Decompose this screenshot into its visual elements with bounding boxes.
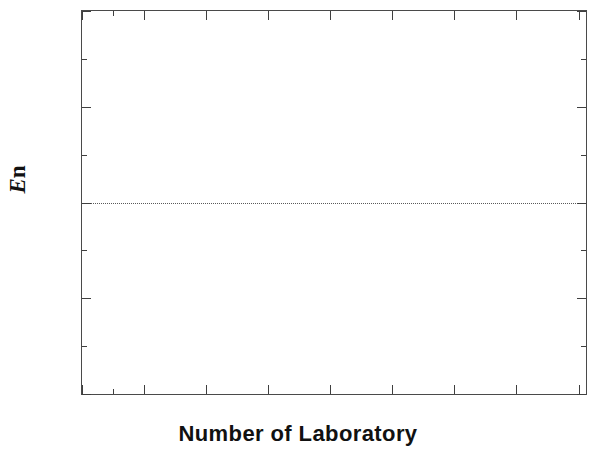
y-axis-title: En <box>6 157 29 203</box>
y-axis-tick-major <box>577 394 586 395</box>
zero-reference-line <box>82 203 586 204</box>
y-axis-tick-major <box>82 203 91 204</box>
y-axis-tick-major <box>577 107 586 108</box>
x-axis-tick-major <box>392 11 393 20</box>
y-axis-tick-minor <box>82 346 87 347</box>
y-axis-tick-major <box>577 298 586 299</box>
x-axis-tick-major <box>330 11 331 20</box>
y-axis-tick-major <box>82 11 91 12</box>
x-axis-title: Number of Laboratory <box>0 423 596 445</box>
y-axis-tick-minor <box>82 59 87 60</box>
x-axis-tick-minor <box>113 389 114 394</box>
x-axis-tick-major <box>516 385 517 394</box>
x-axis-tick-major <box>516 11 517 20</box>
y-axis-title-italic: E <box>5 178 30 193</box>
y-axis-tick-minor <box>82 250 87 251</box>
x-axis-tick-major <box>392 385 393 394</box>
y-axis-tick-major <box>82 107 91 108</box>
x-axis-tick-major <box>454 385 455 394</box>
x-axis-tick-major <box>454 11 455 20</box>
x-axis-tick-major <box>206 11 207 20</box>
x-axis-tick-major <box>268 385 269 394</box>
x-axis-tick-major <box>579 11 580 20</box>
y-axis-tick-minor <box>581 59 586 60</box>
chart-figure: En Number of Laboratory <box>0 0 596 452</box>
x-axis-tick-minor <box>113 11 114 16</box>
x-axis-tick-major <box>144 385 145 394</box>
x-axis-tick-major <box>206 385 207 394</box>
y-axis-tick-major <box>82 394 91 395</box>
y-axis-tick-major <box>577 203 586 204</box>
y-axis-tick-minor <box>581 250 586 251</box>
x-axis-tick-major <box>579 385 580 394</box>
x-axis-tick-major <box>144 11 145 20</box>
x-axis-tick-major <box>82 385 83 394</box>
x-axis-tick-major <box>268 11 269 20</box>
y-axis-tick-minor <box>581 346 586 347</box>
y-axis-tick-major <box>82 298 91 299</box>
y-axis-title-upright: n <box>5 165 30 178</box>
y-axis-tick-minor <box>82 155 87 156</box>
x-axis-tick-major <box>82 11 83 20</box>
plot-area <box>81 10 587 395</box>
y-axis-tick-minor <box>581 155 586 156</box>
x-axis-tick-major <box>330 385 331 394</box>
